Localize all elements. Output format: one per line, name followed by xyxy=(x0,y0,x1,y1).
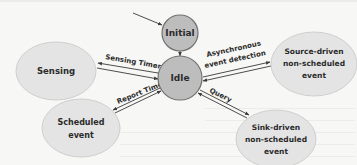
edge-sensing-timer: Sensing Timer xyxy=(97,53,162,79)
entry-arrow xyxy=(133,13,162,25)
node-label-scheduled-line1: Scheduled xyxy=(58,118,105,127)
node-initial: Initial xyxy=(162,15,198,51)
node-sink-driven-event: Sink-driven non-scheduled event xyxy=(236,110,316,165)
node-label-initial: Initial xyxy=(165,28,194,38)
edge-async-detection: Asynchronous event detection xyxy=(203,40,271,81)
state-diagram: Sensing Timer Asynchronous event detecti… xyxy=(0,0,357,165)
node-label-sink-line2: non-scheduled xyxy=(245,135,307,144)
node-label-source-line3: event xyxy=(302,71,326,80)
node-label-sensing: Sensing xyxy=(37,66,75,76)
node-label-scheduled-line2: event xyxy=(68,131,94,140)
edge-label-query: Query xyxy=(208,87,233,105)
node-label-sink-line3: event xyxy=(264,147,288,156)
node-label-idle: Idle xyxy=(171,73,190,83)
edge-query: Query xyxy=(198,87,249,118)
edge-label-sensing-timer: Sensing Timer xyxy=(105,53,163,71)
node-label-sink-line1: Sink-driven xyxy=(252,123,300,132)
node-idle: Idle xyxy=(158,56,202,100)
node-label-source-line2: non-scheduled xyxy=(283,59,345,68)
node-label-source-line1: Source-driven xyxy=(284,47,343,56)
node-source-driven-event: Source-driven non-scheduled event xyxy=(271,32,357,96)
node-scheduled-event: Scheduled event xyxy=(42,99,120,157)
node-sensing: Sensing xyxy=(16,42,96,100)
